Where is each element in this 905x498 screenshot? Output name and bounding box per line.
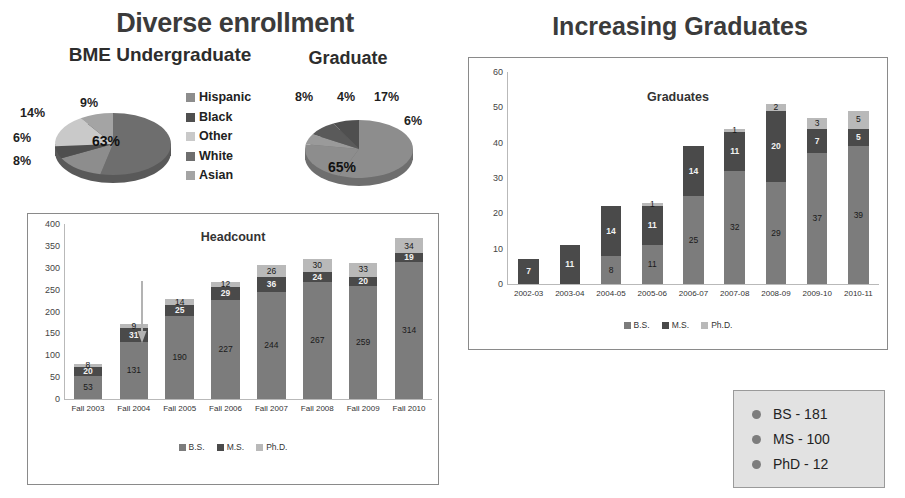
graduates-x-axis-labels: 2002-032003-042004-052005-062006-072007-…: [508, 289, 879, 303]
bar-segment-ms: 24: [303, 272, 331, 283]
bar-segment-phd: 2: [766, 104, 787, 111]
bar-segment-ms: 7: [807, 129, 828, 154]
x-axis-tick-label: 2010-11: [844, 289, 873, 298]
graduates-x-axis-line: [507, 284, 879, 285]
legend-label: M.S.: [227, 442, 244, 452]
legend-label: Ph.D.: [711, 320, 732, 330]
bar-segment-ms: 7: [518, 259, 539, 284]
bar-segment-phd: 3: [807, 118, 828, 129]
legend-swatch-icon: [701, 322, 708, 329]
legend-swatch-icon: [186, 93, 195, 102]
y-axis-tick-label: 50: [477, 102, 503, 112]
y-axis-tick-label: 50: [34, 372, 60, 382]
bullet-icon: [752, 410, 761, 419]
bar-value-label: 14: [175, 298, 184, 307]
legend-item-bs: B.S.: [179, 442, 205, 452]
bar-segment-ms: 19: [395, 253, 423, 261]
headcount-legend: B.S.M.S.Ph.D.: [28, 442, 438, 453]
headcount-x-axis-line: [64, 399, 432, 400]
y-axis-tick-label: 30: [477, 173, 503, 183]
graduates-plot-area: 711814111112514321112920237733955: [508, 72, 879, 284]
legend-swatch-icon: [186, 171, 195, 180]
pie-undergrad-value-other: 14%: [20, 106, 45, 120]
bar-value-label: 24: [313, 273, 322, 282]
bar-value-label: 2: [774, 103, 779, 112]
pie-graduate-value-hispanic: 17%: [374, 90, 399, 104]
x-axis-tick-label: 2007-08: [720, 289, 749, 298]
x-axis-tick-label: Fall 2008: [301, 404, 334, 413]
bar-value-label: 11: [730, 147, 739, 156]
bar-fall-2008: 2672430: [303, 259, 331, 399]
graduates-legend: B.S.M.S.Ph.D.: [469, 320, 887, 331]
headcount-x-axis-labels: Fall 2003Fall 2004Fall 2005Fall 2006Fall…: [65, 404, 432, 418]
legend-item-phd: Ph.D.: [701, 320, 732, 330]
x-axis-tick-label: 2003-04: [555, 289, 584, 298]
subtitle-undergraduate: BME Undergraduate: [40, 44, 280, 66]
bar-fall-2009: 2592033: [349, 263, 377, 400]
bar-value-label: 14: [689, 167, 698, 176]
pie-undergrad-value-black: 6%: [13, 131, 31, 145]
x-axis-tick-label: 2005-06: [638, 289, 667, 298]
bar-segment-bs: 8: [601, 256, 622, 284]
headcount-chart-panel: Headcount 050100150200250300350400 53208…: [27, 213, 439, 485]
y-axis-tick-label: 200: [34, 307, 60, 317]
bar-value-label: 1: [732, 126, 737, 135]
legend-label: M.S.: [672, 320, 689, 330]
graduates-chart-panel: Graduates 0102030405060 7118141111125143…: [468, 57, 888, 350]
pie-legend-label: White: [199, 147, 233, 167]
bar-2010-11: 3955: [848, 111, 869, 284]
bar-segment-bs: 25: [683, 196, 704, 284]
bar-segment-bs: 227: [211, 300, 239, 399]
bar-segment-ms: 11: [724, 132, 745, 171]
y-axis-tick-label: 40: [477, 138, 503, 148]
bar-value-label: 33: [358, 265, 367, 274]
bar-segment-bs: 259: [349, 286, 377, 399]
pie-graduate-value-white: 65%: [328, 159, 356, 175]
bar-value-label: 5: [856, 133, 861, 142]
bar-value-label: 11: [565, 260, 574, 269]
x-axis-tick-label: Fall 2004: [117, 404, 150, 413]
bar-value-label: 8: [86, 361, 91, 370]
bar-segment-phd: 12: [211, 282, 239, 287]
bullet-icon: [752, 460, 761, 469]
y-axis-tick-label: 400: [34, 219, 60, 229]
pie-legend-label: Other: [199, 127, 232, 147]
summary-item-label: PhD - 12: [773, 456, 828, 472]
bar-segment-bs: 32: [724, 171, 745, 284]
legend-swatch-icon: [179, 444, 186, 451]
bar-segment-phd: 34: [395, 238, 423, 253]
legend-label: B.S.: [634, 320, 650, 330]
y-axis-tick-label: 10: [477, 244, 503, 254]
bar-value-label: 37: [812, 214, 821, 223]
bar-segment-ms: 36: [257, 277, 285, 293]
bar-segment-ms: 11: [642, 206, 663, 245]
bar-value-label: 3: [815, 119, 820, 128]
x-axis-tick-label: 2004-05: [596, 289, 625, 298]
bar-segment-bs: 267: [303, 282, 331, 399]
bar-segment-phd: 5: [848, 111, 869, 129]
bar-value-label: 29: [221, 289, 230, 298]
bar-fall-2006: 2272912: [211, 282, 239, 399]
bar-segment-bs: 37: [807, 153, 828, 284]
bar-value-label: 7: [815, 137, 820, 146]
bar-segment-phd: 30: [303, 259, 331, 272]
x-axis-tick-label: 2009-10: [802, 289, 831, 298]
bar-segment-phd: 33: [349, 263, 377, 277]
pie-undergrad-value-hispanic: 8%: [13, 154, 31, 168]
summary-item-ms: MS - 100: [752, 431, 884, 447]
bar-value-label: 25: [175, 306, 184, 315]
bar-segment-phd: 1: [642, 203, 663, 207]
y-axis-tick-label: 250: [34, 285, 60, 295]
bar-segment-phd: 8: [74, 364, 102, 368]
bar-segment-bs: 39: [848, 146, 869, 284]
bar-value-label: 34: [404, 242, 413, 251]
bar-value-label: 53: [83, 383, 92, 392]
legend-item-phd: Ph.D.: [256, 442, 287, 452]
bar-value-label: 29: [771, 229, 780, 238]
x-axis-tick-label: 2002-03: [514, 289, 543, 298]
legend-swatch-icon: [256, 444, 263, 451]
pie-legend-label: Asian: [199, 166, 233, 186]
y-axis-tick-label: 60: [477, 67, 503, 77]
summary-item-label: BS - 181: [773, 406, 827, 422]
bar-value-label: 190: [173, 353, 187, 362]
